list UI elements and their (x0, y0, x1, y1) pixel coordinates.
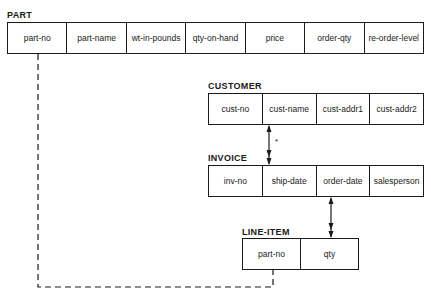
many-relationship-marker: * (275, 137, 278, 146)
relationship-connectors (0, 0, 431, 300)
double-arrow-customer-invoice (267, 125, 272, 165)
dashed-link-part-no (38, 54, 273, 287)
double-arrow-invoice-line-item (329, 197, 334, 238)
